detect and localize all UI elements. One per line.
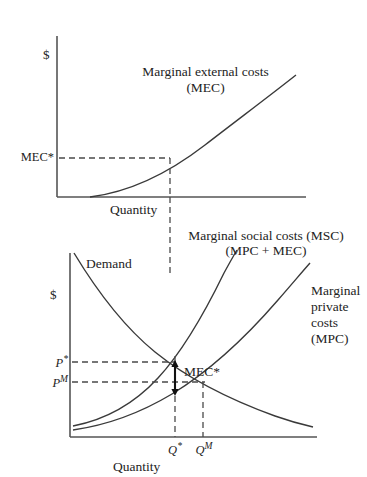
mec-gap-label: MEC* (184, 364, 220, 379)
q-star-sup: * (177, 441, 182, 451)
top-y-axis-label: $ (43, 48, 50, 63)
msc-curve-label-line2: (MPC + MEC) (180, 243, 352, 258)
q-m-sup: M (205, 441, 213, 451)
msc-curve (73, 250, 237, 426)
top-y-tick-mec-star: MEC* (10, 150, 54, 164)
top-x-axis-label: Quantity (110, 202, 157, 217)
mpc-curve-label-line3: costs (311, 315, 338, 330)
mpc-curve-label-line1: Marginal (311, 283, 360, 298)
q-star-base: Q (168, 443, 177, 457)
q-m-base: Q (196, 443, 205, 457)
mpc-curve-label-line2: private (311, 299, 348, 314)
mec-gap-arrowhead-bottom (171, 389, 178, 396)
msc-curve-label-line1: Marginal social costs (MSC) (180, 228, 352, 243)
mec-curve-label-line1: Marginal external costs (128, 64, 283, 79)
mec-curve-label-line2: (MEC) (128, 80, 283, 95)
bottom-y-tick-p-star: P* (26, 354, 68, 370)
p-m-base: P (52, 376, 60, 390)
bottom-y-tick-p-m: PM (26, 374, 68, 390)
mpc-curve-label-line4: (MPC) (311, 331, 349, 346)
p-star-sup: * (63, 354, 68, 364)
demand-curve (74, 253, 313, 427)
bottom-x-tick-q-star: Q* (160, 441, 190, 457)
mpc-curve (73, 263, 310, 430)
demand-curve-label: Demand (86, 256, 132, 271)
mec-gap-arrow (171, 360, 178, 396)
top-panel-axes (57, 36, 306, 197)
economics-figure: $ Marginal external costs (MEC) MEC* Qua… (0, 0, 367, 477)
p-m-sup: M (60, 374, 68, 384)
bottom-y-axis-label: $ (50, 288, 57, 303)
bottom-x-tick-q-m: QM (189, 441, 219, 457)
bottom-x-axis-label: Quantity (113, 459, 160, 474)
bottom-panel-axes (70, 253, 317, 437)
